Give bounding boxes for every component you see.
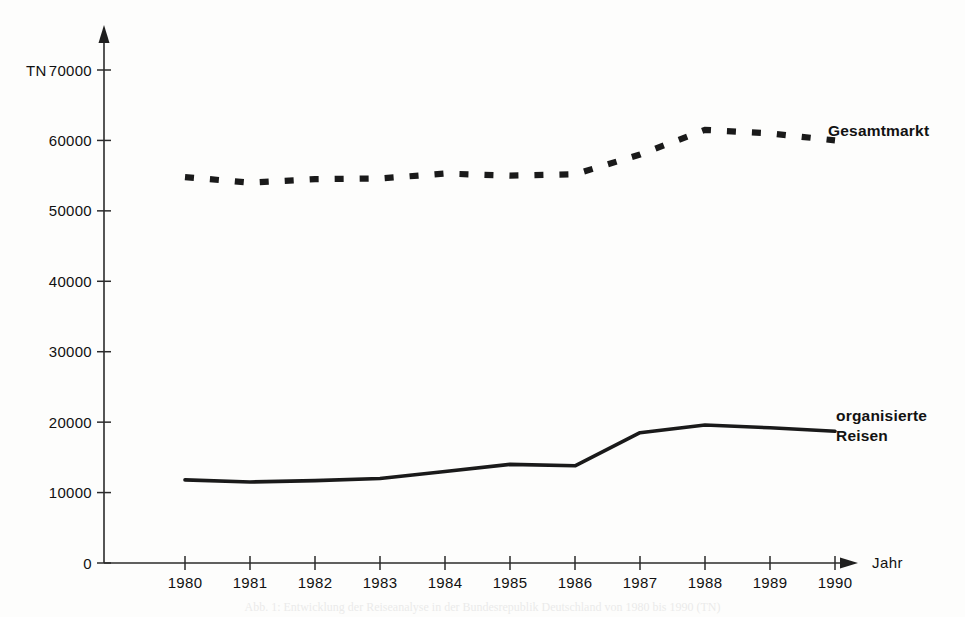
x-tick-label: 1989 [753,574,788,591]
x-tick-label: 1981 [233,574,268,591]
chart-figure: 010000200003000040000500006000070000 198… [0,0,965,617]
x-tick-label: 1988 [688,574,723,591]
x-tick-label: 1986 [558,574,593,591]
series-label-organisierte-reisen-line2: Reisen [836,427,888,444]
x-axis-label: Jahr [872,554,903,571]
x-axis-arrow-icon [840,558,858,569]
figure-caption: Abb. 1: Entwicklung der Reiseanalyse in … [0,600,965,615]
y-axis-label: TN [26,62,47,79]
x-tick-label: 1984 [428,574,463,591]
y-tick-label: 30000 [49,343,92,360]
y-tick-label: 0 [83,555,92,572]
y-tick-label: 20000 [49,414,92,431]
y-axis-arrow-icon [99,25,110,43]
chart-plot-area: 010000200003000040000500006000070000 198… [0,0,965,617]
x-tick-label: 1982 [298,574,333,591]
x-tick-label: 1987 [623,574,658,591]
y-tick-label: 40000 [49,273,92,290]
x-tick-group: 1980198119821983198419851986198719881989… [168,556,853,591]
series-label-gesamtmarkt: Gesamtmarkt [828,122,929,139]
y-tick-label: 70000 [49,62,92,79]
series-line-gesamtmarkt [185,130,835,183]
y-tick-label: 50000 [49,202,92,219]
x-tick-label: 1980 [168,574,203,591]
y-tick-group: 010000200003000040000500006000070000 [49,62,111,572]
x-tick-label: 1983 [363,574,398,591]
x-tick-label: 1990 [818,574,853,591]
series-label-organisierte-reisen-line1: organisierte [836,407,927,424]
y-tick-label: 60000 [49,132,92,149]
x-tick-label: 1985 [493,574,528,591]
y-tick-label: 10000 [49,484,92,501]
series-line-organisierte-reisen [185,425,835,482]
